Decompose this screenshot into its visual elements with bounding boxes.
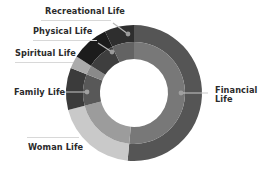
marker-family-dot bbox=[85, 90, 90, 95]
label-family-life: Family Life bbox=[14, 88, 65, 97]
marker-financial-dot bbox=[179, 91, 184, 96]
label-recreational-life: Recreational Life bbox=[45, 7, 125, 16]
donut-chart: Recreational Life Physical Life Spiritua… bbox=[0, 0, 264, 172]
label-physical-life: Physical Life bbox=[33, 27, 92, 36]
marker-physical-dot bbox=[110, 50, 115, 55]
label-spiritual-life: Spiritual Life bbox=[15, 49, 76, 58]
label-woman-life: Woman Life bbox=[28, 143, 83, 152]
label-woman-description-line bbox=[27, 137, 79, 138]
label-financial-line2: Life bbox=[215, 95, 257, 104]
label-physical-description-line bbox=[33, 40, 97, 41]
label-spiritual-description-line bbox=[15, 62, 73, 63]
marker-recreational-dot bbox=[126, 32, 131, 37]
label-recreational-description-line bbox=[41, 20, 111, 21]
label-financial-life: Financial Life bbox=[215, 86, 257, 104]
